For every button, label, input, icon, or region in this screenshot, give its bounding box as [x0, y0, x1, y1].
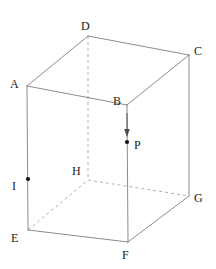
label-C: C	[194, 45, 202, 57]
edge-EF	[28, 230, 128, 242]
figure-canvas	[0, 0, 216, 269]
label-B: B	[113, 95, 121, 107]
label-H: H	[72, 165, 81, 177]
point-P-dot	[125, 140, 129, 144]
edge-EH	[28, 180, 88, 230]
edge-HG	[88, 180, 189, 196]
arrow-head	[124, 129, 130, 137]
solid-edges-group	[27, 36, 189, 242]
edge-BC	[127, 55, 189, 105]
label-D: D	[81, 20, 90, 32]
label-G: G	[194, 192, 203, 204]
label-E: E	[11, 232, 18, 244]
label-A: A	[10, 78, 19, 90]
label-I: I	[12, 180, 16, 192]
point-I-dot	[26, 177, 30, 181]
edge-AB	[27, 86, 127, 105]
edge-AD	[27, 36, 88, 86]
label-F: F	[122, 249, 129, 261]
label-P: P	[134, 139, 141, 151]
edge-FG	[128, 196, 189, 242]
edge-DC	[88, 36, 189, 55]
geometry-figure: A B C D E F G H P I	[0, 0, 216, 269]
downward-arrow	[124, 113, 130, 137]
edge-AE	[27, 86, 28, 230]
